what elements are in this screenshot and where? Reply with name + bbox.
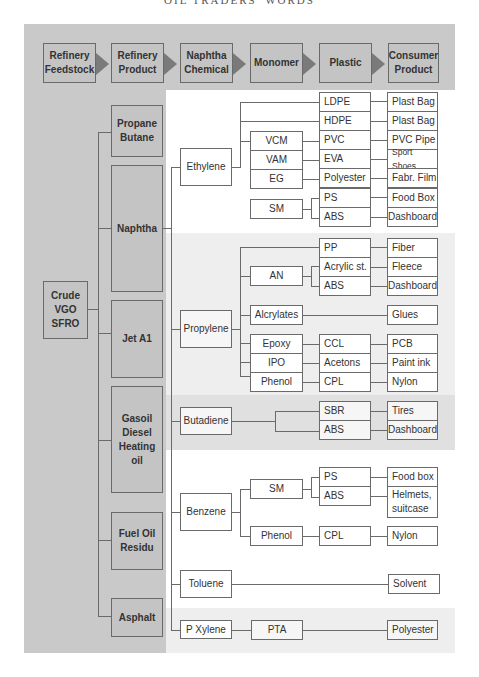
connector	[98, 616, 111, 617]
plastic-abs: ABS	[319, 276, 371, 296]
plastic-ldpe: LDPE	[319, 92, 371, 112]
connector	[371, 363, 387, 364]
connector	[311, 198, 319, 199]
chemical-ethylene: Ethylene	[180, 148, 232, 186]
connector	[371, 267, 387, 268]
connector	[98, 228, 111, 229]
plastic-abs: ABS	[319, 207, 371, 227]
monomer-pta: PTA	[251, 620, 303, 640]
arrow-right-icon	[372, 53, 385, 75]
connector	[240, 247, 319, 248]
monomer-vam: VAM	[250, 150, 303, 170]
connector	[303, 344, 319, 345]
connector	[240, 102, 319, 103]
connector	[371, 217, 387, 218]
consumer-sport-shoes: Sport Shoes	[387, 149, 438, 169]
consumer-plast-bag: Plast Bag	[387, 92, 438, 112]
connector	[371, 430, 387, 431]
monomer-phenol: Phenol	[250, 372, 303, 392]
plastic-cpl: CPL	[319, 526, 371, 546]
product-fuel-oil: Fuel Oil Residu	[111, 512, 163, 570]
connector	[303, 536, 319, 537]
connector	[240, 489, 241, 537]
plastic-acetons: Acetons	[319, 353, 371, 373]
connector	[240, 536, 250, 537]
connector	[232, 329, 240, 330]
chemical-pxylene: P Xylene	[180, 620, 232, 639]
plastic-sbr: SBR	[319, 401, 371, 421]
chemical-benzene: Benzene	[180, 493, 232, 531]
consumer-polyester: Polyester	[387, 620, 438, 640]
connector	[240, 121, 319, 122]
connector	[275, 431, 319, 432]
connector	[275, 411, 276, 432]
connector	[303, 141, 319, 142]
consumer-dashboard: Dashboard	[387, 276, 438, 296]
connector	[303, 179, 319, 180]
connector	[98, 540, 111, 541]
plastic-abs: ABS	[319, 420, 371, 440]
product-naphtha: Naphtha	[111, 165, 163, 292]
connector	[311, 286, 319, 287]
connector	[371, 382, 387, 383]
connector	[311, 266, 319, 267]
connector	[303, 276, 311, 277]
stage-monomer: Monomer	[250, 43, 303, 83]
consumer-pcb: PCB	[387, 334, 438, 354]
stage-naphtha-chemical: Naphtha Chemical	[180, 43, 233, 83]
connector	[240, 276, 250, 277]
connector	[371, 477, 387, 478]
connector	[371, 101, 387, 102]
connector	[371, 247, 387, 248]
connector	[371, 411, 387, 412]
product-jet-a1: Jet A1	[111, 300, 163, 378]
arrow-right-icon	[303, 53, 316, 75]
connector	[240, 315, 250, 316]
connector	[171, 167, 172, 630]
monomer-ipo: IPO	[250, 353, 303, 373]
monomer-sm: SM	[250, 479, 303, 499]
chemical-toluene: Toluene	[180, 570, 232, 598]
consumer-tires: Tires	[387, 401, 438, 421]
connector	[371, 344, 387, 345]
connector	[171, 421, 180, 422]
monomer-vcm: VCM	[250, 131, 303, 151]
connector	[311, 218, 319, 219]
connector	[98, 333, 111, 334]
connector	[311, 477, 312, 498]
connector	[303, 315, 387, 316]
consumer-nylon: Nylon	[387, 372, 438, 392]
connector	[303, 209, 311, 210]
monomer-alcrylates: Alcrylates	[250, 305, 303, 325]
connector	[371, 140, 387, 141]
connector	[371, 159, 387, 160]
connector	[275, 411, 319, 412]
monomer-sm: SM	[250, 199, 303, 219]
product-propane-butane: Propane Butane	[111, 105, 163, 157]
monomer-an: AN	[250, 266, 303, 286]
connector	[240, 343, 250, 344]
consumer-nylon: Nylon	[387, 526, 438, 546]
consumer-dashboard: Dashboard	[387, 207, 438, 227]
connector	[371, 536, 387, 537]
product-asphalt: Asphalt	[111, 598, 163, 637]
connector	[171, 167, 180, 168]
plastic-ps: PS	[319, 188, 371, 208]
connector	[240, 102, 241, 168]
connector	[311, 198, 312, 219]
plastic-eva: EVA	[319, 149, 371, 169]
plastic-abs: ABS	[319, 486, 371, 506]
connector	[232, 421, 275, 422]
connector	[240, 362, 250, 363]
connector	[240, 141, 250, 142]
chemical-propylene: Propylene	[180, 310, 232, 348]
plastic-polyester: Polyester	[319, 168, 371, 188]
connector	[171, 512, 180, 513]
consumer-dashboard: Dashboard	[387, 420, 438, 440]
connector	[98, 132, 111, 133]
connector	[371, 121, 387, 122]
connector	[303, 382, 319, 383]
arrow-right-icon	[233, 53, 246, 75]
consumer-solvent: Solvent	[388, 574, 440, 594]
connector	[311, 477, 319, 478]
